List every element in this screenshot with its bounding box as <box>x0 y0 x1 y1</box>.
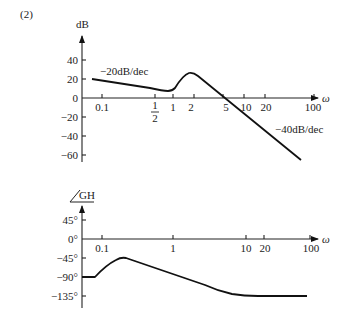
svg-text:2: 2 <box>188 101 194 113</box>
phase-omega-label: ω <box>322 233 330 245</box>
phase-plot: GH ω 45° 0° −45° −90° −135° 0.1 1 10 20 … <box>51 189 330 308</box>
svg-text:40: 40 <box>67 54 79 66</box>
phase-y-ticks: 45° 0° −45° −90° −135° <box>51 214 86 302</box>
svg-text:−90°: −90° <box>56 271 78 283</box>
svg-text:−20: −20 <box>61 111 79 123</box>
svg-text:20: 20 <box>261 101 273 113</box>
mag-omega-label: ω <box>322 92 330 104</box>
svg-text:100: 100 <box>305 101 322 113</box>
magnitude-plot: dB ω 40 20 0 −20 −40 −60 0 <box>61 18 330 162</box>
svg-text:20: 20 <box>67 73 79 85</box>
magnitude-curve <box>92 73 301 160</box>
svg-text:5: 5 <box>223 101 229 113</box>
svg-text:2: 2 <box>152 112 158 124</box>
svg-text:20: 20 <box>260 242 272 254</box>
svg-text:0°: 0° <box>68 233 78 245</box>
slope-annotation-2: −40dB/dec <box>275 123 323 135</box>
svg-text:1: 1 <box>170 101 176 113</box>
figure-label: (2) <box>20 8 33 21</box>
slope-annotation-1: −20dB/dec <box>100 65 148 77</box>
svg-text:−135°: −135° <box>51 290 78 302</box>
svg-text:0: 0 <box>73 92 79 104</box>
svg-text:−60: −60 <box>61 149 79 161</box>
phase-x-ticks: 0.1 1 10 20 100 <box>95 235 320 254</box>
svg-text:100: 100 <box>303 242 320 254</box>
svg-text:1: 1 <box>170 242 176 254</box>
svg-text:0.1: 0.1 <box>95 242 109 254</box>
svg-text:45°: 45° <box>63 214 78 226</box>
phase-curve <box>82 258 307 296</box>
svg-text:10: 10 <box>241 242 253 254</box>
svg-text:0.1: 0.1 <box>95 101 109 113</box>
svg-text:1: 1 <box>152 99 158 111</box>
phase-y-axis-label: GH <box>79 189 95 201</box>
svg-text:−45°: −45° <box>56 252 78 264</box>
bode-figure: (2) dB ω 40 20 0 −20 −40 −60 <box>0 0 354 311</box>
mag-y-axis-label: dB <box>76 18 89 30</box>
svg-text:−40: −40 <box>61 130 79 142</box>
